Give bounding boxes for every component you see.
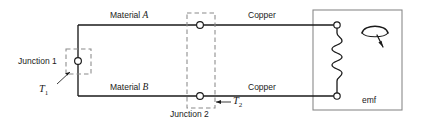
junction-2-label: Junction 2: [170, 110, 209, 119]
material-a-prefix: Material: [110, 10, 143, 20]
t1-label: T1: [39, 84, 48, 97]
t2-subscript: 2: [239, 101, 243, 109]
material-a-symbol: A: [143, 10, 149, 20]
emf-terminal-top: [334, 22, 340, 28]
junction2-node-bottom: [197, 93, 204, 100]
emf-label: emf: [362, 95, 376, 105]
copper-top-label: Copper: [248, 11, 276, 20]
junction-1-label: Junction 1: [18, 57, 57, 66]
copper-bottom-label: Copper: [248, 83, 276, 92]
material-b-label: Material B: [110, 83, 148, 93]
junction1-node: [75, 58, 82, 65]
emf-terminal-bottom: [334, 93, 340, 99]
meter-dial-base: [362, 33, 388, 37]
junction2-node-top: [197, 22, 204, 29]
meter-needle-tip: [378, 41, 383, 47]
circuit-schematic: [0, 0, 421, 120]
galvanometer-coil: [332, 29, 342, 93]
t1-subscript: 1: [45, 89, 49, 97]
meter-dial-arc: [362, 26, 388, 33]
t2-label: T2: [233, 96, 242, 109]
thermocouple-diagram: Material A Material B Copper Copper Junc…: [0, 0, 421, 120]
material-b-prefix: Material: [110, 82, 143, 92]
t2-leader-arrowhead: [216, 100, 221, 104]
material-b-symbol: B: [143, 82, 149, 92]
material-a-label: Material A: [110, 11, 148, 21]
